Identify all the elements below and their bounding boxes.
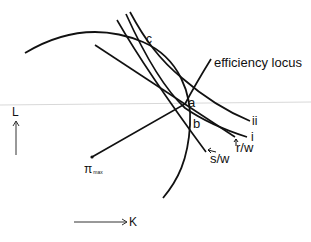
point-b-label: b — [193, 117, 200, 130]
point-c-label: c — [146, 33, 152, 45]
ratio-rw-label: r/w — [236, 141, 253, 154]
axis-l-label: L — [12, 106, 19, 118]
k-axis-arrow-icon — [74, 219, 127, 225]
curve-i — [126, 14, 247, 137]
horizontal-rule — [0, 102, 311, 105]
l-axis-arrow-icon — [13, 121, 19, 155]
curve-ii-label: ii — [252, 115, 257, 127]
pi-symbol: π — [84, 162, 92, 176]
economic-diagram — [0, 0, 311, 242]
ratio-sw-label: s/w — [210, 152, 230, 165]
pi-max-label: πmax — [84, 163, 103, 175]
pi-max-point — [90, 155, 93, 158]
axis-k-label: K — [129, 216, 137, 228]
point-a-label: a — [188, 96, 195, 109]
pi-max-subscript: max — [93, 169, 102, 175]
efficiency-locus-label: efficiency locus — [214, 56, 302, 69]
